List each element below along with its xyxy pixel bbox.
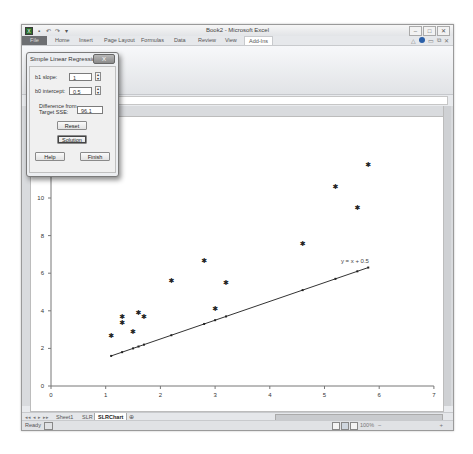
b1-label: b1 slope:	[35, 74, 57, 80]
normal-view-icon[interactable]	[332, 422, 340, 430]
tab-view[interactable]: View	[225, 37, 237, 43]
fitted-point	[225, 315, 227, 317]
x-tick-label: 1	[104, 392, 108, 398]
fitted-point	[138, 346, 140, 348]
tab-file[interactable]: File	[22, 36, 47, 45]
x-tick-label: 4	[268, 392, 272, 398]
data-point: ✱	[108, 332, 114, 340]
y-tick-label: 2	[41, 345, 45, 351]
zoom-level[interactable]: 100%	[360, 422, 374, 428]
restore-workbook-icon[interactable]: ▭	[428, 37, 434, 44]
diff-sse-input[interactable]: 96.1	[77, 106, 103, 114]
x-tick-label: 5	[323, 392, 327, 398]
view-buttons	[332, 422, 358, 430]
x-tick-label: 7	[432, 392, 436, 398]
data-point: ✱	[130, 328, 136, 336]
dialog-body: b1 slope: 1 ▴▾ b0 intercept: 0.5 ▴▾ Diff…	[29, 66, 116, 173]
dialog-title: Simple Linear Regression	[30, 56, 99, 62]
data-point: ✱	[141, 313, 147, 321]
title-bar: X ▪ ↶ ↷ ▾ Book2 - Microsoft Excel – □ ✕	[22, 25, 453, 36]
zoom-in-icon[interactable]: +	[439, 422, 443, 428]
fitted-point	[302, 289, 304, 291]
ribbon-right-controls: △ ▭ ⧉ ✕	[411, 37, 449, 44]
y-tick-label: 6	[41, 270, 45, 276]
y-tick-label: 0	[41, 383, 45, 389]
close-button[interactable]: ✕	[437, 26, 450, 36]
tab-add-ins[interactable]: Add-Ins	[244, 36, 273, 45]
tab-insert[interactable]: Insert	[79, 37, 93, 43]
reset-button[interactable]: Reset	[57, 121, 87, 130]
data-point: ✱	[223, 279, 229, 287]
data-point: ✱	[168, 277, 174, 285]
trendline-equation: y = x + 0.5	[341, 258, 370, 264]
fitted-point	[132, 347, 134, 349]
help-button[interactable]: Help	[35, 152, 65, 161]
vertical-scrollbar[interactable]	[443, 106, 451, 406]
minimize-ribbon-icon[interactable]: △	[411, 37, 416, 44]
fitted-point	[334, 278, 336, 280]
window-controls: – □ ✕	[409, 26, 450, 36]
data-point: ✱	[201, 257, 207, 265]
data-point: ✱	[119, 313, 125, 321]
data-point: ✱	[212, 305, 218, 313]
fitted-point	[170, 334, 172, 336]
y-tick-label: 4	[41, 308, 45, 314]
tab-home[interactable]: Home	[55, 37, 70, 43]
data-point: ✱	[365, 161, 371, 169]
macro-record-icon[interactable]	[44, 422, 53, 430]
fitted-point	[356, 270, 358, 272]
minimize-button[interactable]: –	[409, 26, 422, 36]
diff-label-2: Target SSE:	[39, 109, 68, 115]
b0-label: b0 intercept:	[35, 88, 65, 94]
tab-review[interactable]: Review	[198, 37, 216, 43]
x-tick-label: 2	[159, 392, 163, 398]
finish-button[interactable]: Finish	[80, 152, 110, 161]
tab-data[interactable]: Data	[174, 37, 186, 43]
data-point: ✱	[333, 183, 339, 191]
maximize-button[interactable]: □	[423, 26, 436, 36]
zoom-out-icon[interactable]: −	[378, 422, 382, 428]
fitted-point	[367, 267, 369, 269]
ribbon-tabs: File Home Insert Page Layout Formulas Da…	[22, 36, 453, 46]
tab-formulas[interactable]: Formulas	[141, 37, 164, 43]
data-point: ✱	[354, 204, 360, 212]
help-icon[interactable]	[419, 37, 425, 43]
formula-input[interactable]	[110, 96, 448, 105]
window-title: Book2 - Microsoft Excel	[22, 27, 453, 33]
solution-button[interactable]: Solution	[57, 135, 87, 144]
b0-input[interactable]: 0.5	[69, 87, 92, 95]
fitted-point	[110, 355, 112, 357]
y-tick-label: 10	[37, 195, 44, 201]
regression-line	[111, 268, 368, 356]
b1-spinner[interactable]: ▴▾	[95, 72, 101, 81]
fitted-point	[203, 323, 205, 325]
b1-input[interactable]: 1	[69, 73, 92, 81]
slr-dialog: Simple Linear Regression X b1 slope: 1 ▴…	[26, 52, 119, 177]
page-break-view-icon[interactable]	[350, 422, 358, 430]
tab-page-layout[interactable]: Page Layout	[104, 37, 135, 43]
status-bar: Ready 100% − +	[22, 420, 453, 430]
dialog-close-button[interactable]: X	[93, 54, 115, 64]
x-tick-label: 0	[49, 392, 53, 398]
x-tick-label: 3	[213, 392, 217, 398]
fitted-point	[214, 319, 216, 321]
fitted-point	[143, 344, 145, 346]
b0-spinner[interactable]: ▴▾	[95, 86, 101, 95]
data-point: ✱	[300, 240, 306, 248]
fitted-point	[121, 351, 123, 353]
y-tick-label: 8	[41, 233, 45, 239]
x-tick-label: 6	[378, 392, 382, 398]
page-layout-view-icon[interactable]	[341, 422, 349, 430]
status-ready: Ready	[25, 422, 41, 428]
workbook-close-icon[interactable]: ✕	[444, 37, 449, 44]
workbook-restore-icon[interactable]: ⧉	[437, 37, 441, 44]
